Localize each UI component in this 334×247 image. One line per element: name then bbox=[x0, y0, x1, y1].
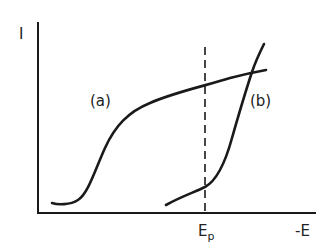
curve-b-label: (b) bbox=[250, 92, 271, 110]
ep-label-subscript: p bbox=[207, 230, 214, 243]
diagram-canvas: I (a) (b) Ep -E bbox=[0, 0, 334, 247]
y-axis-label: I bbox=[19, 25, 23, 43]
curve-a-label: (a) bbox=[90, 92, 111, 110]
curve-a bbox=[52, 70, 266, 204]
curve-b bbox=[166, 44, 264, 205]
ep-label-main: E bbox=[198, 222, 207, 240]
x-axis-label: -E bbox=[295, 222, 310, 240]
ep-label: Ep bbox=[198, 222, 214, 243]
